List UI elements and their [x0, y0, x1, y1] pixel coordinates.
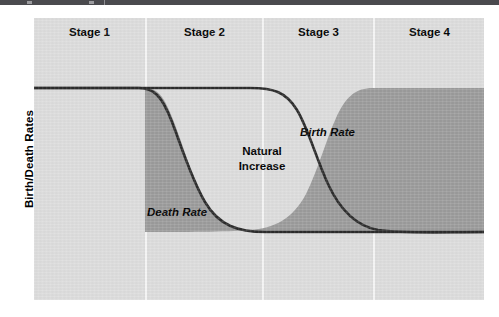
death-rate-label: Death Rate [147, 206, 207, 218]
natural-increase-label: Natural Increase [212, 144, 312, 174]
birth-rate-label: Birth Rate [300, 126, 355, 138]
natural-increase-label-line2: Increase [212, 159, 312, 174]
natural-increase-label-line1: Natural [212, 144, 312, 159]
stage-label-3: Stage 3 [264, 26, 373, 38]
cropped-ui-strip [0, 0, 499, 5]
stage-label-2: Stage 2 [147, 26, 262, 38]
strip-dot-icon [89, 1, 94, 4]
stage-label-4: Stage 4 [375, 26, 484, 38]
stage-label-1: Stage 1 [34, 26, 145, 38]
strip-dot-icon [27, 1, 32, 4]
demographic-transition-figure: Birth/Death Rates Stage 1 Stage 2 Stage … [0, 0, 499, 317]
strip-tick-icon [104, 0, 105, 5]
plot-area: Stage 1 Stage 2 Stage 3 Stage 4 Birth Ra… [34, 18, 484, 300]
